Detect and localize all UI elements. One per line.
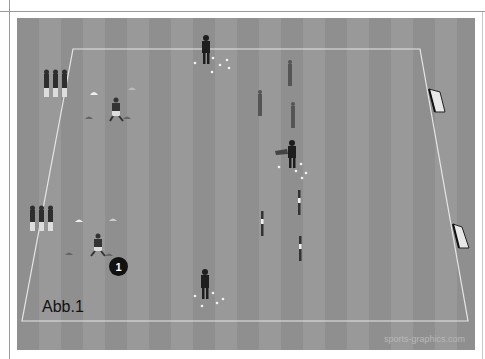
balls-bottom-icon xyxy=(194,292,225,308)
coach-bottom-icon xyxy=(201,269,209,299)
field-boundary xyxy=(22,49,468,321)
number-marker: 1 xyxy=(109,257,128,276)
balls-top-icon xyxy=(194,57,231,74)
cone-icon xyxy=(65,253,73,256)
training-pitch-diagram: Abb.1 sports-graphics.com 1 xyxy=(17,18,475,350)
frame-right-rule xyxy=(482,12,483,359)
pole-icon xyxy=(298,190,301,215)
pole-icon xyxy=(261,211,264,236)
goal-bottom-right-icon xyxy=(453,224,469,248)
watermark: sports-graphics.com xyxy=(384,334,465,344)
cone-icon xyxy=(105,254,113,257)
frame-top-rule xyxy=(0,11,485,12)
cone-icon xyxy=(128,88,136,91)
cone-icon xyxy=(123,117,131,120)
cone-icon xyxy=(75,220,83,223)
pole-icon xyxy=(299,236,302,261)
balls-middle-icon xyxy=(278,163,308,180)
frame-left-rule xyxy=(9,0,10,359)
cone-icon xyxy=(90,92,98,95)
player-top-icon xyxy=(110,98,123,122)
mannequin-icon xyxy=(258,90,262,116)
coach-middle-icon xyxy=(275,140,296,168)
goal-top-right-icon xyxy=(429,89,445,112)
player-group-bottom-icon xyxy=(30,206,53,232)
figure-caption: Abb.1 xyxy=(42,298,84,316)
mannequin-icon xyxy=(288,60,292,86)
pitch-illustration xyxy=(17,18,475,350)
cone-icon xyxy=(85,117,93,120)
player-bottom-icon xyxy=(91,234,105,257)
coach-top-icon xyxy=(202,35,210,64)
player-group-top-icon xyxy=(44,70,67,98)
cone-icon xyxy=(109,219,117,222)
mannequin-icon xyxy=(291,102,295,128)
